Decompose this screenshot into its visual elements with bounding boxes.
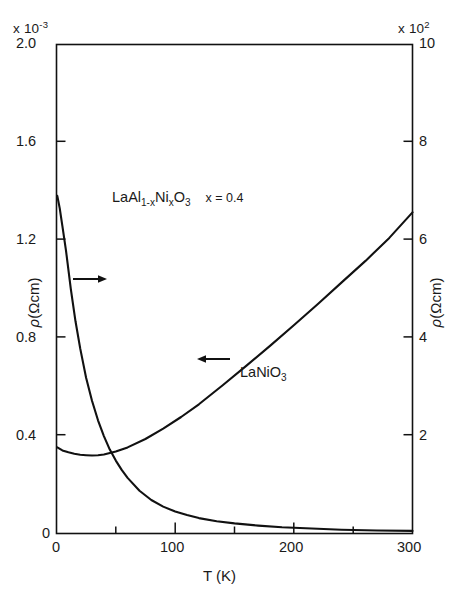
left-axis-title-rho: ρ (25, 319, 42, 328)
left-tick-label-0: 0 (42, 526, 50, 541)
x-tick-label-300: 300 (397, 540, 421, 555)
right-tick-label-4: 4 (419, 330, 427, 345)
resistivity-vs-temperature-chart (0, 0, 451, 598)
x-tick-label-200: 200 (279, 540, 303, 555)
series-a-sub3: 3 (185, 197, 191, 208)
x-axis-title: T (K) (203, 568, 236, 583)
left-tick-label-1.2: 1.2 (16, 232, 36, 247)
series-a-formula-head: LaAl (112, 189, 141, 205)
right-axis-multiplier: x 102 (398, 22, 430, 36)
left-axis-title: ρ(Ωcm) (26, 258, 41, 348)
left-axis-multiplier: x 10-3 (13, 22, 48, 36)
series-a-sub1: 1-x (141, 197, 155, 208)
right-axis-title: ρ(Ωcm) (428, 258, 443, 348)
left-tick-label-0.4: 0.4 (16, 428, 36, 443)
figure-panel: x 10-3 x 102 2.0 1.6 1.2 0.8 0.4 0 10 8 … (0, 0, 451, 598)
left-tick-label-1.6: 1.6 (16, 134, 36, 149)
plot-frame (57, 45, 413, 534)
right-axis-title-rho: ρ (427, 319, 444, 328)
series-a-mid: Ni (155, 189, 169, 205)
arrow-to-left-axis-icon (73, 275, 107, 283)
arrow-to-right-axis-icon (197, 355, 230, 363)
x-tick-label-0: 0 (52, 540, 60, 555)
right-axis-ticks (404, 141, 413, 434)
left-tick-label-2.0: 2.0 (16, 36, 36, 51)
curve-lanio3 (57, 212, 412, 455)
x-tick-label-100: 100 (160, 540, 184, 555)
series-a-tail: O (174, 189, 185, 205)
right-tick-label-8: 8 (419, 134, 427, 149)
right-tick-label-10: 10 (419, 36, 435, 51)
right-axis-title-units: (Ωcm) (427, 278, 444, 319)
series-label-laal-ni-o3: LaAl1-xNixO3 x = 0.4 (112, 190, 243, 205)
right-tick-label-2: 2 (419, 428, 427, 443)
left-axis-title-units: (Ωcm) (25, 278, 42, 319)
series-b-formula-head: LaNiO (240, 364, 281, 380)
series-label-lanio3: LaNiO3 (240, 365, 287, 380)
series-a-composition: x = 0.4 (206, 191, 244, 205)
right-tick-label-6: 6 (419, 232, 427, 247)
left-axis-ticks (57, 141, 66, 434)
series-b-sub3: 3 (281, 372, 287, 383)
curve-laal-ni-o3 (57, 196, 412, 531)
